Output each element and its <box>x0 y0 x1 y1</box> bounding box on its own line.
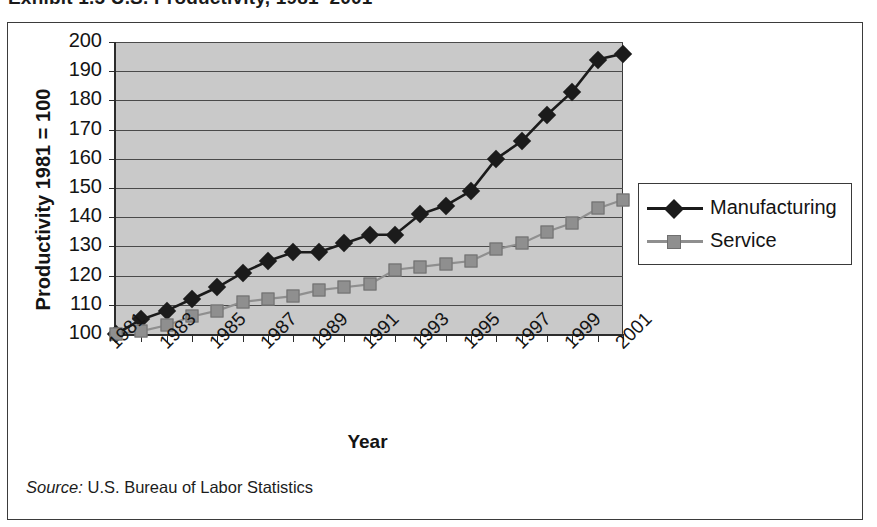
data-point <box>363 278 376 291</box>
y-axis-tick-mark <box>109 42 116 43</box>
plot-area <box>114 42 623 336</box>
data-point <box>211 304 224 317</box>
data-point <box>388 263 401 276</box>
y-axis-tick-label: 160 <box>46 146 102 169</box>
data-point <box>312 284 325 297</box>
chart-legend: ManufacturingService <box>638 183 852 265</box>
source-line: Source: U.S. Bureau of Labor Statistics <box>26 478 313 497</box>
legend-label: Service <box>710 229 777 252</box>
chart-container: Productivity 1981 = 100 1001101201301401… <box>8 23 864 521</box>
legend-item: Service <box>647 224 837 257</box>
y-axis-tick-mark <box>109 217 116 218</box>
y-axis-tick-mark <box>109 71 116 72</box>
y-axis-tick-label: 120 <box>46 263 102 286</box>
y-axis-tick-label: 100 <box>46 321 102 344</box>
legend-item: Manufacturing <box>647 191 837 224</box>
y-axis-tick-label: 130 <box>46 233 102 256</box>
y-axis-tick-label: 110 <box>46 292 102 315</box>
data-point <box>617 193 630 206</box>
legend-label: Manufacturing <box>710 196 837 219</box>
data-point <box>338 281 351 294</box>
legend-marker-square <box>667 235 681 249</box>
y-axis-tick-mark <box>109 305 116 306</box>
y-axis-tick-mark <box>109 276 116 277</box>
source-text: U.S. Bureau of Labor Statistics <box>83 478 313 496</box>
y-axis-tick-mark <box>109 188 116 189</box>
data-point <box>414 260 427 273</box>
y-axis-tick-label: 200 <box>46 29 102 52</box>
y-axis-tick-label: 170 <box>46 117 102 140</box>
data-point <box>566 217 579 230</box>
y-axis-tick-label: 190 <box>46 58 102 81</box>
figure-frame: Productivity 1981 = 100 1001101201301401… <box>7 22 863 520</box>
y-axis-tick-labels: 100110120130140150160170180190200 <box>46 23 102 521</box>
exhibit-title: Exhibit 1.5 U.S. Productivity, 1981–2001 <box>8 0 373 9</box>
legend-swatch <box>647 233 703 249</box>
y-axis-tick-label: 180 <box>46 87 102 110</box>
source-label: Source: <box>26 478 83 496</box>
x-axis-title: Year <box>114 431 621 453</box>
data-point <box>591 202 604 215</box>
data-point <box>464 255 477 268</box>
legend-marker-diamond <box>664 199 684 219</box>
y-axis-tick-mark <box>109 159 116 160</box>
y-axis-tick-mark <box>109 130 116 131</box>
data-point <box>236 295 249 308</box>
y-axis-tick-mark <box>109 246 116 247</box>
data-point <box>262 292 275 305</box>
legend-swatch <box>647 200 703 216</box>
y-axis-tick-label: 150 <box>46 175 102 198</box>
x-axis-tick-labels: 1981198319851987198919911993199519971999… <box>114 338 674 428</box>
y-axis-tick-mark <box>109 100 116 101</box>
data-point <box>515 237 528 250</box>
data-point <box>490 243 503 256</box>
y-axis-tick-label: 140 <box>46 204 102 227</box>
data-point <box>439 257 452 270</box>
data-point <box>287 290 300 303</box>
data-point <box>540 225 553 238</box>
